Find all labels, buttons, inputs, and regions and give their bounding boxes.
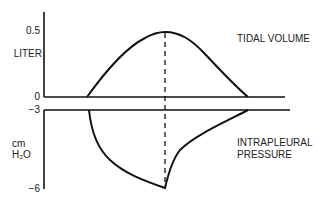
- tidal-volume-curve: [87, 32, 248, 97]
- chart-canvas: [0, 0, 330, 198]
- bottom-tick-minus-3: −3: [12, 104, 40, 115]
- top-tick-0-5: 0.5: [12, 25, 40, 36]
- bottom-unit-line1: cm: [12, 138, 25, 149]
- bottom-unit-line2: H₂O: [12, 149, 31, 160]
- intrapleural-title-line2: PRESSURE: [237, 149, 292, 160]
- top-unit-label: LITER: [4, 48, 42, 59]
- tidal-volume-title: TIDAL VOLUME: [237, 33, 310, 44]
- intrapleural-pressure-curve: [89, 110, 248, 188]
- bottom-tick-minus-6: −6: [12, 183, 40, 194]
- top-tick-0: 0: [12, 91, 40, 102]
- intrapleural-title-line1: INTRAPLEURAL: [237, 137, 313, 148]
